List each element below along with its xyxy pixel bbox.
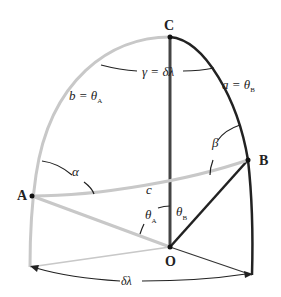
spherical-triangle-diagram: C A B O γ = δλ b = θA a = θB α β c θA θB…	[0, 0, 281, 297]
label-delta-lambda: δλ	[121, 274, 132, 288]
delta-lambda-arc-right	[142, 274, 246, 281]
line-O-left	[30, 247, 170, 267]
label-O: O	[165, 254, 176, 269]
label-alpha: α	[72, 164, 80, 179]
label-beta: β	[211, 135, 219, 150]
label-B: B	[259, 153, 268, 168]
label-gamma: γ = δλ	[142, 64, 174, 79]
point-C	[168, 35, 173, 40]
label-thetaA: θA	[145, 207, 156, 225]
gamma-arc-right	[183, 68, 214, 71]
arc-c	[32, 160, 248, 196]
beta-arc	[218, 125, 240, 140]
alpha-arc	[42, 161, 72, 175]
beta-arc-2	[210, 160, 213, 175]
line-O-right	[170, 247, 252, 275]
arc-a	[170, 37, 252, 275]
label-b-side: b = θA	[69, 88, 102, 105]
point-B	[246, 158, 251, 163]
label-A: A	[17, 188, 28, 203]
arrowhead-left	[30, 265, 39, 272]
delta-lambda-arc-left	[36, 268, 120, 281]
label-c-side: c	[146, 182, 152, 197]
theta-top-arc	[158, 206, 170, 208]
gamma-arc	[101, 65, 137, 71]
thetaA-arc	[140, 224, 144, 234]
label-a-side: a = θB	[222, 77, 255, 94]
point-O	[168, 245, 173, 250]
label-C: C	[164, 18, 174, 33]
label-thetaB: θB	[176, 204, 187, 222]
point-A	[30, 194, 35, 199]
